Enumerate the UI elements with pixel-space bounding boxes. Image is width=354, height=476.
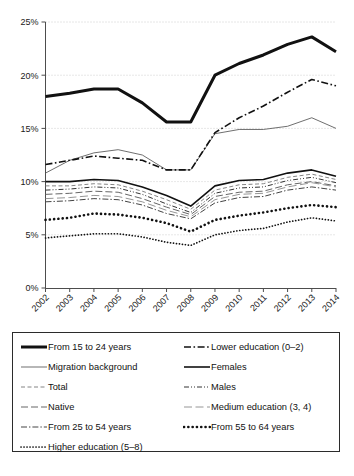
figure: 0%5%10%15%20%25% 20022003200420052006200… <box>0 0 354 476</box>
x-tick-label: 2013 <box>296 292 317 313</box>
series-line <box>46 170 337 206</box>
legend-item[interactable]: Lower education (0–2) <box>176 337 339 357</box>
chart-legend: From 15 to 24 yearsLower education (0–2)… <box>12 332 340 452</box>
legend-line-swatch <box>20 341 48 353</box>
legend-item-label: Higher education (5–8) <box>48 442 143 453</box>
legend-item[interactable]: Migration background <box>13 357 176 377</box>
y-tick-label: 0% <box>25 283 38 293</box>
x-tick-label: 2003 <box>54 292 75 313</box>
x-tick-label: 2004 <box>78 292 99 313</box>
y-tick-label: 10% <box>20 177 38 187</box>
legend-item-label: Males <box>211 382 236 393</box>
x-tick-label: 2009 <box>199 292 220 313</box>
x-tick-label: 2005 <box>102 292 123 313</box>
legend-item-label: From 55 to 64 years <box>211 422 294 433</box>
y-axis-ticks: 0%5%10%15%20%25% <box>20 17 45 293</box>
x-tick-label: 2008 <box>175 292 196 313</box>
y-tick-label: 20% <box>20 71 38 81</box>
legend-spacer <box>176 437 339 457</box>
y-tick-label: 15% <box>20 124 38 134</box>
series-line <box>46 118 337 173</box>
x-tick-label: 2007 <box>151 292 172 313</box>
x-tick-label: 2011 <box>248 292 269 313</box>
gridlines <box>46 22 337 235</box>
legend-line-swatch <box>183 361 211 373</box>
legend-item-label: Lower education (0–2) <box>211 342 304 353</box>
legend-line-swatch <box>183 421 211 433</box>
figure-caption <box>6 459 350 473</box>
legend-item[interactable]: Native <box>13 397 176 417</box>
x-tick-label: 2014 <box>320 292 341 313</box>
series-line <box>46 218 337 246</box>
legend-line-swatch <box>20 441 48 453</box>
y-tick-label: 5% <box>25 230 38 240</box>
x-axis-ticks: 2002200320042005200620072008200920102011… <box>30 288 342 314</box>
line-chart-svg: 0%5%10%15%20%25% 20022003200420052006200… <box>0 0 354 322</box>
x-tick-label: 2002 <box>30 292 51 313</box>
legend-line-swatch <box>20 361 48 373</box>
legend-item-label: Migration background <box>48 362 137 373</box>
legend-item-label: From 25 to 54 years <box>48 422 131 433</box>
legend-item[interactable]: Males <box>176 377 339 397</box>
data-series-group <box>46 37 337 246</box>
legend-item[interactable]: From 15 to 24 years <box>13 337 176 357</box>
legend-item-label: Total <box>48 382 68 393</box>
legend-item[interactable]: Total <box>13 377 176 397</box>
chart-plot-area: 0%5%10%15%20%25% 20022003200420052006200… <box>0 0 354 322</box>
legend-line-swatch <box>20 401 48 413</box>
legend-item-label: From 15 to 24 years <box>48 342 131 353</box>
legend-item[interactable]: Females <box>176 357 339 377</box>
legend-item-label: Females <box>211 362 247 373</box>
legend-line-swatch <box>183 401 211 413</box>
y-tick-label: 25% <box>20 17 38 27</box>
legend-line-swatch <box>183 381 211 393</box>
series-line <box>46 182 337 215</box>
legend-item-label: Native <box>48 402 74 413</box>
legend-items-grid: From 15 to 24 yearsLower education (0–2)… <box>13 333 339 451</box>
legend-item[interactable]: From 55 to 64 years <box>176 417 339 437</box>
legend-line-swatch <box>20 381 48 393</box>
x-tick-label: 2010 <box>223 292 244 313</box>
x-tick-label: 2012 <box>272 292 293 313</box>
legend-line-swatch <box>20 421 48 433</box>
legend-item[interactable]: From 25 to 54 years <box>13 417 176 437</box>
legend-item-label: Medium education (3, 4) <box>211 402 311 413</box>
legend-item[interactable]: Medium education (3, 4) <box>176 397 339 417</box>
axes <box>46 22 337 289</box>
x-tick-label: 2006 <box>127 292 148 313</box>
series-line <box>46 37 337 122</box>
legend-line-swatch <box>183 341 211 353</box>
legend-item[interactable]: Higher education (5–8) <box>13 437 176 457</box>
